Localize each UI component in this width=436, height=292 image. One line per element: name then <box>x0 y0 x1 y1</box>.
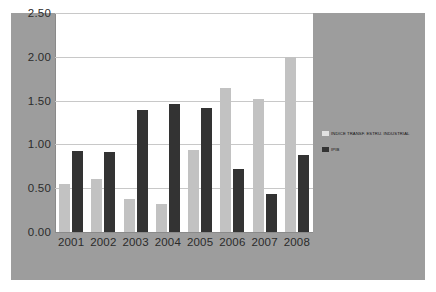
gridline <box>55 57 313 58</box>
x-tick-label: 2007 <box>249 236 281 248</box>
gridline <box>55 13 313 14</box>
x-tick-label: 2008 <box>281 236 313 248</box>
x-tick-label: 2005 <box>184 236 216 248</box>
x-tick-label: 2003 <box>120 236 152 248</box>
y-tick-label: 0.00 <box>28 226 51 238</box>
y-axis: 0.000.501.001.502.002.50 <box>4 13 51 232</box>
y-tick-label: 1.50 <box>28 95 51 107</box>
y-tick-label: 0.50 <box>28 182 51 194</box>
gridline <box>55 232 313 233</box>
y-tick-label: 2.00 <box>28 51 51 63</box>
x-tick-label: 2004 <box>152 236 184 248</box>
legend-item: INDICE TRANSF. ESTRU. INDUSTRIAL <box>322 131 430 136</box>
gridline <box>55 101 313 102</box>
gridline <box>55 144 313 145</box>
x-tick-label: 2006 <box>216 236 248 248</box>
chart-legend: INDICE TRANSF. ESTRU. INDUSTRIALIPIB <box>322 131 430 163</box>
legend-swatch-icon <box>322 147 329 152</box>
gridlines <box>55 13 313 232</box>
legend-label: IPIB <box>331 147 339 152</box>
x-axis: 20012002200320042005200620072008 <box>55 236 313 248</box>
legend-item: IPIB <box>322 147 430 152</box>
legend-label: INDICE TRANSF. ESTRU. INDUSTRIAL <box>331 131 410 136</box>
x-tick-label: 2001 <box>55 236 87 248</box>
legend-swatch-icon <box>322 131 329 136</box>
y-tick-label: 2.50 <box>28 7 51 19</box>
bar-chart: 0.000.501.001.502.002.50 200120022003200… <box>0 0 436 292</box>
x-tick-label: 2002 <box>87 236 119 248</box>
gridline <box>55 188 313 189</box>
y-tick-label: 1.00 <box>28 138 51 150</box>
